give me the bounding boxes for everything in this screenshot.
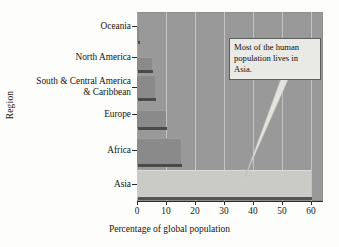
x-tick-mark-30: [224, 201, 225, 205]
bar-body-africa: [137, 138, 181, 165]
y-tick-label-north-america: North America: [7, 52, 131, 63]
x-tick-mark-60: [311, 201, 312, 205]
bar-shadow-north-america: [138, 70, 153, 73]
y-tick-label-south-central-america-line2: & Caribbean: [7, 87, 131, 98]
x-tick-mark-20: [195, 201, 196, 205]
y-tick-label-north-america-line1: North America: [75, 52, 131, 62]
x-tick-label-60: 60: [298, 206, 324, 216]
y-tick-label-south-central-america: South & Central America & Caribbean: [7, 76, 131, 97]
x-tick-label-0: 0: [124, 206, 150, 216]
y-tick-mark-europe: [132, 114, 137, 115]
y-tick-mark-oceania: [132, 26, 137, 27]
x-axis-title: Percentage of global population: [0, 224, 339, 234]
bar-shadow-africa: [138, 164, 182, 167]
y-tick-label-africa: Africa: [7, 145, 131, 156]
y-tick-label-south-central-america-line1: South & Central America: [7, 76, 131, 87]
x-tick-mark-0: [137, 201, 138, 205]
x-tick-mark-40: [253, 201, 254, 205]
y-tick-mark-africa: [132, 150, 137, 151]
bar-shadow-asia: [138, 197, 312, 200]
bar-asia: [137, 170, 311, 197]
y-tick-mark-asia: [132, 184, 137, 185]
bar-body-oceania: [137, 26, 139, 42]
y-tick-label-oceania: Oceania: [7, 21, 131, 32]
x-tick-mark-50: [282, 201, 283, 205]
bar-shadow-oceania: [138, 41, 140, 44]
bar-body-north-america: [137, 57, 152, 71]
bar-body-europe: [137, 110, 166, 128]
bar-africa: [137, 138, 181, 164]
bar-shadow-europe: [138, 127, 167, 130]
bar-shadow-south-central-america: [138, 98, 156, 101]
x-tick-label-20: 20: [182, 206, 208, 216]
y-tick-mark-south-central-america: [132, 87, 137, 88]
y-tick-label-europe-line1: Europe: [104, 109, 131, 119]
bar-body-asia: [137, 170, 311, 198]
y-tick-label-asia-line1: Asia: [114, 179, 131, 189]
x-tick-label-30: 30: [211, 206, 237, 216]
bar-body-south-central-america: [137, 75, 155, 99]
y-tick-label-europe: Europe: [7, 109, 131, 120]
y-tick-mark-north-america: [132, 57, 137, 58]
x-tick-label-10: 10: [153, 206, 179, 216]
bar-north-america: [137, 57, 152, 70]
bar-oceania: [137, 26, 139, 41]
annotation-callout: Most of the human population lives in As…: [229, 38, 321, 80]
bar-south-central-america: [137, 75, 155, 98]
x-axis-line: [137, 201, 323, 202]
bar-europe: [137, 110, 166, 127]
x-tick-label-40: 40: [240, 206, 266, 216]
y-tick-label-africa-line1: Africa: [107, 145, 131, 155]
y-tick-label-oceania-line1: Oceania: [101, 21, 131, 31]
y-tick-label-asia: Asia: [7, 179, 131, 190]
bar-chart-figure: Region: [0, 0, 339, 247]
x-tick-mark-10: [166, 201, 167, 205]
x-tick-label-50: 50: [269, 206, 295, 216]
